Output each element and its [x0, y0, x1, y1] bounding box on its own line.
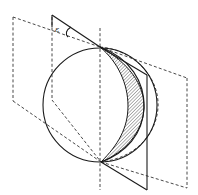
hatched-lune — [100, 47, 144, 162]
angle-arc — [66, 27, 71, 37]
sphere-lune-diagram: ε — [0, 0, 198, 195]
angle-label: ε — [55, 25, 59, 34]
